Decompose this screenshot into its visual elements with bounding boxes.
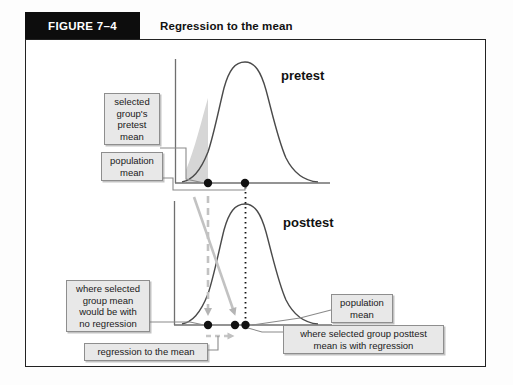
pretest-shaded-tail bbox=[186, 98, 208, 183]
posttest-noregression-dot bbox=[204, 321, 212, 329]
callout-selected-pretest-mean: selected group's pretest mean bbox=[104, 93, 160, 145]
callout-population-mean-pretest: population mean bbox=[101, 152, 163, 181]
connector-population-posttest bbox=[252, 310, 331, 325]
callout-regression-to-the-mean: regression to the mean bbox=[84, 343, 208, 361]
pretest-selected-mean-dot bbox=[204, 179, 212, 187]
posttest-curve-label: posttest bbox=[283, 215, 334, 230]
callout-with-regression: where selected group posttest mean is wi… bbox=[283, 325, 444, 354]
pretest-population-mean-dot bbox=[241, 179, 249, 187]
posttest-withregression-dot bbox=[231, 321, 239, 329]
regression-solid-arrow bbox=[194, 197, 234, 312]
figure-root: FIGURE 7–4 Regression to the mean bbox=[0, 0, 513, 385]
callout-population-mean-posttest: population mean bbox=[331, 294, 393, 323]
connector-rtm bbox=[208, 336, 218, 350]
connector-with-regression bbox=[248, 328, 283, 332]
pretest-curve-label: pretest bbox=[281, 68, 324, 83]
callout-no-regression: where selected group mean would be with … bbox=[66, 280, 150, 332]
